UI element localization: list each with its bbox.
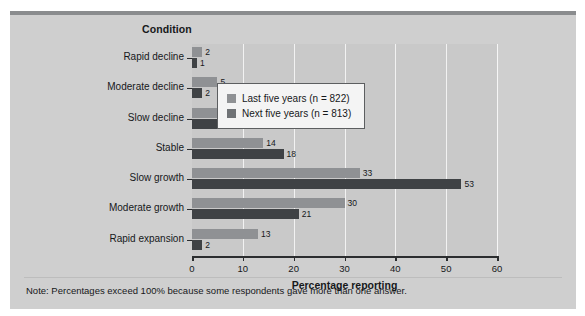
x-tick-label: 20 (288, 263, 299, 274)
bar-row: Rapid decline21 (192, 44, 497, 74)
category-label: Slow decline (128, 112, 184, 123)
category-label: Moderate growth (109, 202, 184, 213)
x-tick-label: 30 (339, 263, 350, 274)
bar (192, 77, 217, 87)
x-tick-label: 40 (390, 263, 401, 274)
bar-value-label: 33 (363, 168, 372, 178)
legend-label: Last five years (n = 822) (242, 93, 350, 104)
bar-rows: Rapid decline21Moderate decline52Slow de… (192, 44, 497, 256)
bar-value-label: 14 (266, 138, 275, 148)
bar-row: Rapid expansion132 (192, 226, 497, 256)
category-label: Slow growth (130, 172, 184, 183)
gridline (497, 44, 498, 256)
x-tick-label: 10 (238, 263, 249, 274)
legend: Last five years (n = 822) Next five year… (217, 83, 365, 129)
category-label: Moderate decline (107, 81, 184, 92)
legend-item: Next five years (n = 813) (227, 106, 351, 121)
bar (192, 47, 202, 57)
bar-value-label: 13 (261, 229, 270, 239)
x-tick (243, 256, 245, 261)
y-axis-title: Condition (142, 23, 192, 35)
figure-container: Condition Rapid decline21Moderate declin… (0, 0, 585, 316)
bar-value-label: 30 (348, 198, 357, 208)
bar-value-label: 1 (200, 58, 205, 68)
bar-value-label: 21 (302, 209, 311, 219)
note-separator (24, 277, 562, 278)
bar-value-label: 53 (464, 179, 473, 189)
bar-row: Slow growth3353 (192, 165, 497, 195)
bar (192, 209, 299, 219)
bar (192, 88, 202, 98)
bar (192, 240, 202, 250)
legend-item: Last five years (n = 822) (227, 91, 351, 106)
bar-row: Stable1418 (192, 135, 497, 165)
x-tick (395, 256, 397, 261)
plot-area: Rapid decline21Moderate decline52Slow de… (192, 44, 497, 256)
bar (192, 179, 461, 189)
legend-label: Next five years (n = 813) (242, 108, 351, 119)
figure-note: Note: Percentages exceed 100% because so… (26, 285, 407, 296)
bar (192, 58, 197, 68)
category-label: Rapid decline (123, 51, 184, 62)
legend-swatch-icon (227, 109, 236, 118)
x-tick-label: 0 (189, 263, 194, 274)
bar (192, 229, 258, 239)
bar-value-label: 2 (205, 240, 210, 250)
x-tick (446, 256, 448, 261)
chart-panel: Condition Rapid decline21Moderate declin… (10, 15, 576, 309)
legend-swatch-icon (227, 94, 236, 103)
x-tick (497, 256, 499, 261)
bar-value-label: 18 (287, 149, 296, 159)
bar-value-label: 2 (205, 47, 210, 57)
bar-row: Moderate growth3021 (192, 195, 497, 225)
bar (192, 149, 284, 159)
bar (192, 138, 263, 148)
category-label: Rapid expansion (110, 233, 185, 244)
x-tick (192, 256, 194, 261)
x-tick-label: 60 (492, 263, 503, 274)
bar (192, 168, 360, 178)
x-tick (345, 256, 347, 261)
x-tick-label: 50 (441, 263, 452, 274)
bar-value-label: 2 (205, 88, 210, 98)
cut-off-header-text (12, 0, 572, 4)
bar (192, 198, 345, 208)
x-tick (294, 256, 296, 261)
category-label: Stable (156, 142, 184, 153)
